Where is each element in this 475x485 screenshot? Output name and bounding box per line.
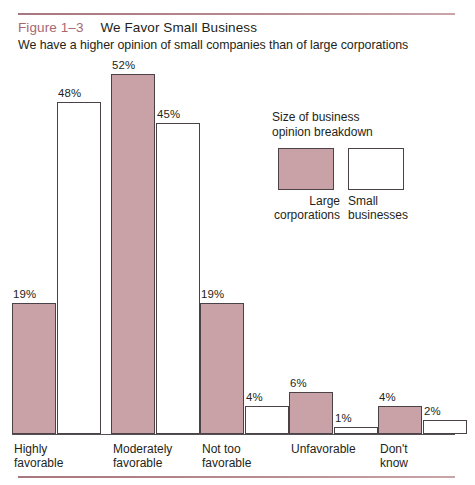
legend-title-line-2: opinion breakdown	[272, 125, 424, 140]
bar-value-label-large-3: 6%	[290, 377, 307, 389]
x-axis-category-label-4-line-1: know	[380, 456, 408, 470]
x-axis-baseline	[12, 434, 455, 435]
bar-large-corporations-0	[12, 303, 56, 434]
bar-small-businesses-1	[156, 123, 200, 434]
x-axis-category-label-0-line-1: favorable	[14, 456, 63, 470]
x-axis-category-label-2-line-0: Not too	[202, 442, 251, 456]
x-axis-category-label-0: Highlyfavorable	[14, 442, 63, 470]
bar-large-corporations-1	[111, 74, 155, 434]
x-axis-category-label-3-line-0: Unfavorable	[291, 442, 356, 456]
legend-label-large-corporations: Large corporations	[272, 194, 340, 222]
legend-label-small-line-1: Small	[348, 194, 408, 208]
legend-label-large-line-2: corporations	[272, 208, 340, 222]
bar-small-businesses-3	[334, 427, 378, 434]
bar-value-label-small-2: 4%	[246, 391, 263, 403]
legend-swatch-small-businesses	[348, 148, 404, 190]
legend-label-small-line-2: businesses	[348, 208, 408, 222]
x-axis-category-label-2: Not toofavorable	[202, 442, 251, 470]
x-axis-category-label-2-line-1: favorable	[202, 456, 251, 470]
bar-small-businesses-4	[423, 420, 467, 434]
bar-value-label-large-0: 19%	[13, 288, 36, 300]
bar-small-businesses-0	[57, 102, 101, 434]
chart-legend: Size of business opinion breakdown Large…	[272, 110, 424, 226]
bar-small-businesses-2	[245, 406, 289, 434]
bar-value-label-large-2: 19%	[201, 288, 224, 300]
x-axis-category-label-0-line-0: Highly	[14, 442, 63, 456]
bar-value-label-small-1: 45%	[157, 108, 180, 120]
x-axis-category-label-3: Unfavorable	[291, 442, 356, 456]
legend-captions: Large corporations Small businesses	[272, 194, 424, 226]
bar-value-label-large-1: 52%	[112, 59, 135, 71]
x-axis-category-label-4: Don'tknow	[380, 442, 408, 470]
x-axis-category-label-4-line-0: Don't	[380, 442, 408, 456]
bar-large-corporations-4	[378, 406, 422, 434]
legend-swatches	[272, 148, 424, 190]
bar-large-corporations-2	[200, 303, 244, 434]
bar-large-corporations-3	[289, 392, 333, 434]
legend-swatch-large-corporations	[278, 148, 334, 190]
bar-value-label-small-4: 2%	[424, 405, 441, 417]
bar-value-label-small-0: 48%	[58, 87, 81, 99]
bar-value-label-large-4: 4%	[379, 391, 396, 403]
legend-label-large-line-1: Large	[272, 194, 340, 208]
legend-label-small-businesses: Small businesses	[348, 194, 408, 222]
legend-title: Size of business opinion breakdown	[272, 110, 424, 139]
legend-title-line-1: Size of business	[272, 110, 424, 125]
bar-value-label-small-3: 1%	[335, 412, 352, 424]
x-axis-category-label-1: Moderatelyfavorable	[113, 442, 172, 470]
bar-chart-plot: 19%52%19%6%4%48%45%4%1%2%Highlyfavorable…	[0, 0, 475, 485]
x-axis-category-label-1-line-0: Moderately	[113, 442, 172, 456]
x-axis-category-label-1-line-1: favorable	[113, 456, 172, 470]
